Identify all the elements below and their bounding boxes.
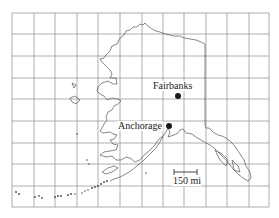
grid <box>12 13 269 207</box>
fairbanks-label: Fairbanks <box>152 81 193 91</box>
anchorage-dot <box>166 123 172 129</box>
fairbanks-dot <box>175 93 181 99</box>
alaska-map <box>0 0 279 218</box>
scale-bar-label: 150 mi <box>172 176 202 186</box>
coastline <box>70 23 251 181</box>
anchorage-label: Anchorage <box>117 121 163 131</box>
